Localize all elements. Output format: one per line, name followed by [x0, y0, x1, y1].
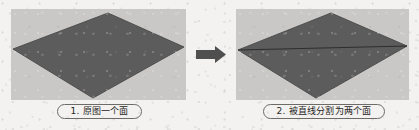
figure-panel-divided [236, 9, 409, 100]
caption-original: 1. 原图一个面 [57, 104, 142, 119]
caption-divided: 2. 被直线分割为两个面 [263, 104, 385, 119]
rhombus-face [13, 13, 184, 98]
caption-divided-text: 2. 被直线分割为两个面 [277, 107, 372, 116]
rhombus-divided [236, 9, 409, 100]
caption-original-text: 1. 原图一个面 [70, 107, 128, 116]
rhombus-face-upper [238, 13, 407, 98]
arrow-right-icon [196, 46, 226, 63]
rhombus-original [11, 9, 186, 100]
figure-panel-original [11, 9, 186, 100]
